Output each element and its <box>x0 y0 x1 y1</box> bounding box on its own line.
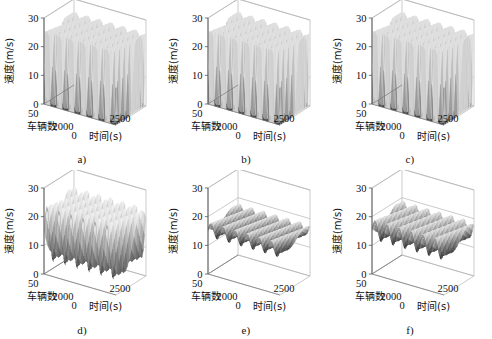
panel-label-e: e) <box>164 324 328 336</box>
x-tick-label-2500: 2500 <box>274 283 295 294</box>
z-tick-label: 30 <box>192 183 203 194</box>
z-tick-label: 10 <box>28 240 39 251</box>
y-tick-label-50: 50 <box>356 278 367 289</box>
surface-mesh <box>44 187 146 279</box>
panel-label-d: d) <box>0 324 164 336</box>
x-tick-label-2000: 2000 <box>380 121 401 132</box>
x-axis-title: 时间(s) <box>89 300 122 312</box>
surface-plot-f: 0102030速度(m/s)500车辆数20002500时间(s) <box>328 170 492 339</box>
y-tick-label-50: 50 <box>356 108 367 119</box>
z-tick-label: 30 <box>28 183 39 194</box>
z-tick-label: 30 <box>356 183 367 194</box>
x-axis-title: 时间(s) <box>89 130 122 142</box>
z-tick-label: 10 <box>356 70 367 81</box>
panel-label-f: f) <box>328 324 492 336</box>
z-tick-label: 20 <box>28 211 39 222</box>
panel-e: 0102030速度(m/s)500车辆数20002500时间(s) e) <box>164 170 328 339</box>
x-axis-title: 时间(s) <box>253 130 286 142</box>
z-tick-label: 10 <box>192 70 203 81</box>
z-axis-title: 速度(m/s) <box>167 208 179 254</box>
panel-b: 0102030速度(m/s)500车辆数20002500时间(s) b) <box>164 0 328 169</box>
x-axis-title: 时间(s) <box>253 300 286 312</box>
y-tick-label-50: 50 <box>28 108 39 119</box>
panel-label-c: c) <box>328 153 492 165</box>
x-axis-title: 时间(s) <box>417 130 450 142</box>
x-tick-label-2500: 2500 <box>438 113 459 124</box>
z-tick-label: 10 <box>356 240 367 251</box>
surface-plot-e: 0102030速度(m/s)500车辆数20002500时间(s) <box>164 170 328 339</box>
x-tick-label-2000: 2000 <box>380 291 401 302</box>
z-tick-label: 30 <box>356 13 367 24</box>
z-tick-label: 30 <box>28 13 39 24</box>
z-tick-label: 10 <box>192 240 203 251</box>
z-tick-label: 20 <box>192 41 203 52</box>
panel-c: 0102030速度(m/s)500车辆数20002500时间(s) c) <box>328 0 492 169</box>
y-tick-label-50: 50 <box>192 278 203 289</box>
figure-grid: 0102030速度(m/s)500车辆数20002500时间(s) a) 010… <box>0 0 492 339</box>
surface-plot-b: 0102030速度(m/s)500车辆数20002500时间(s) <box>164 0 328 169</box>
x-tick-label-2500: 2500 <box>110 113 131 124</box>
y-tick-label-50: 50 <box>28 278 39 289</box>
x-tick-label-2000: 2000 <box>216 121 237 132</box>
z-tick-label: 20 <box>28 41 39 52</box>
surface-plot-c: 0102030速度(m/s)500车辆数20002500时间(s) <box>328 0 492 169</box>
x-tick-label-2500: 2500 <box>438 283 459 294</box>
z-axis-title: 速度(m/s) <box>331 38 343 84</box>
panel-d: 0102030速度(m/s)500车辆数20002500时间(s) d) <box>0 170 164 339</box>
z-tick-label: 10 <box>28 70 39 81</box>
panel-f: 0102030速度(m/s)500车辆数20002500时间(s) f) <box>328 170 492 339</box>
z-axis-title: 速度(m/s) <box>3 208 15 254</box>
z-axis-title: 速度(m/s) <box>167 38 179 84</box>
x-tick-label-2000: 2000 <box>52 291 73 302</box>
z-tick-label: 20 <box>356 211 367 222</box>
x-axis-title: 时间(s) <box>417 300 450 312</box>
z-tick-label: 20 <box>192 211 203 222</box>
x-tick-label-2000: 2000 <box>52 121 73 132</box>
z-axis-title: 速度(m/s) <box>3 38 15 84</box>
surface-mesh <box>208 204 310 257</box>
z-tick-label: 20 <box>356 41 367 52</box>
z-axis-title: 速度(m/s) <box>331 208 343 254</box>
panel-label-a: a) <box>0 153 164 165</box>
panel-label-b: b) <box>164 153 328 165</box>
surface-plot-a: 0102030速度(m/s)500车辆数20002500时间(s) <box>0 0 164 169</box>
x-tick-label-2500: 2500 <box>274 113 295 124</box>
surface-mesh <box>372 201 474 260</box>
surface-plot-d: 0102030速度(m/s)500车辆数20002500时间(s) <box>0 170 164 339</box>
x-tick-label-2000: 2000 <box>216 291 237 302</box>
x-tick-label-2500: 2500 <box>110 283 131 294</box>
z-tick-label: 30 <box>192 13 203 24</box>
y-tick-label-50: 50 <box>192 108 203 119</box>
panel-a: 0102030速度(m/s)500车辆数20002500时间(s) a) <box>0 0 164 169</box>
